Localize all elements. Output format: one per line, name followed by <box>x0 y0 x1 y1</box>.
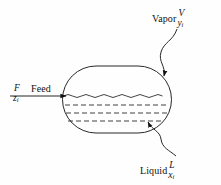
liquid-composition-symbol: xi <box>168 171 174 181</box>
liquid-label-text: Liquid <box>140 166 167 176</box>
vapor-symbols: V yi <box>177 9 184 28</box>
liquid-composition-subscript: i <box>172 173 174 180</box>
liquid-leader-line <box>148 122 176 156</box>
feed-symbols: F zi <box>13 84 20 103</box>
figure-canvas: Vapor V yi Feed F zi Liquid L xi <box>0 0 221 185</box>
feed-symbol-stack: F zi <box>13 84 20 103</box>
liquid-stream-label: Liquid L xi <box>140 161 175 180</box>
liquid-symbols: L xi <box>168 161 174 180</box>
vapor-label-text: Vapor <box>152 14 176 24</box>
vapor-stream-label: Vapor V yi <box>152 9 184 28</box>
vapor-composition-symbol: yi <box>177 19 184 29</box>
feed-composition-subscript: i <box>17 96 19 103</box>
vapor-composition-subscript: i <box>182 21 184 28</box>
liquid-surface-line <box>64 95 163 98</box>
vessel-outline <box>63 66 172 133</box>
feed-composition-symbol: zi <box>13 94 20 104</box>
vapor-leader-line <box>160 29 177 76</box>
feed-label-text: Feed <box>31 84 51 94</box>
